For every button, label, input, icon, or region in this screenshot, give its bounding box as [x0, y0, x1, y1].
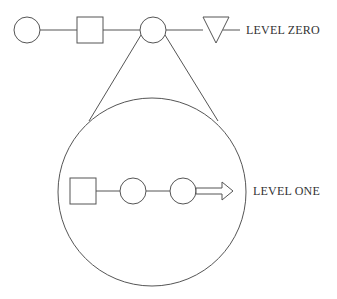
expansion-line-right: [165, 35, 218, 121]
level-one-circle-1: [120, 178, 146, 204]
expansion-line-left: [89, 35, 141, 121]
level-zero-circle-1: [14, 17, 40, 43]
level-one-label: LEVEL ONE: [253, 184, 320, 199]
hierarchy-diagram: [0, 0, 337, 299]
level-one-arrow-icon: [196, 182, 233, 200]
level-zero-square: [77, 17, 103, 43]
level-one-square: [70, 178, 96, 204]
level-one-circle-2: [170, 178, 196, 204]
level-zero-circle-expanded: [140, 17, 166, 43]
level-zero-label: LEVEL ZERO: [246, 23, 320, 38]
